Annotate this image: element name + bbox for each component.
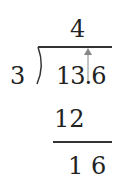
divisor: 3 bbox=[10, 64, 25, 88]
decimal-point-arrow-icon bbox=[83, 47, 93, 83]
dividend: 13.6 bbox=[56, 64, 105, 88]
subtraction-bar bbox=[53, 141, 112, 143]
division-bracket-icon bbox=[34, 46, 46, 86]
quotient: 4 bbox=[70, 17, 85, 41]
step1-remainder: 1 6 bbox=[68, 154, 106, 178]
step1-product: 12 bbox=[54, 107, 85, 131]
division-bar bbox=[38, 46, 112, 48]
